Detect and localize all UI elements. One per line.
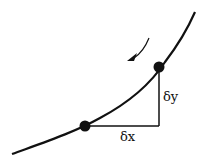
dy-label: δy (163, 89, 179, 104)
arrowhead-icon (127, 53, 137, 61)
lower-point (80, 121, 91, 132)
dx-label: δx (120, 129, 136, 144)
curve (12, 12, 195, 154)
diagram: δx δy (0, 0, 206, 161)
diagram-canvas: δx δy (0, 0, 206, 161)
upper-point (154, 62, 165, 73)
